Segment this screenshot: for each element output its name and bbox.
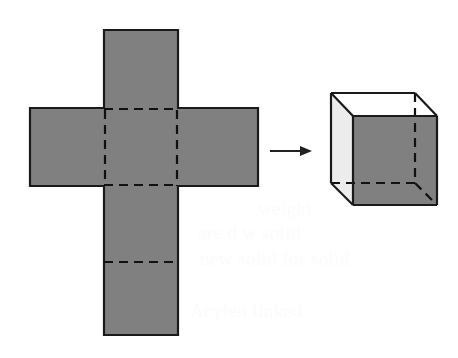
figure-canvas <box>0 0 458 358</box>
cube-face-front <box>353 116 437 205</box>
folded-cube-group <box>331 93 437 205</box>
cube-net-figure: weightare d w solidnew solid for solidAc… <box>0 0 458 358</box>
